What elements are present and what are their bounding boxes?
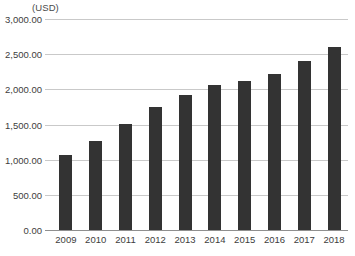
y-axis-tick-mark [45, 230, 50, 231]
y-axis-tick-mark [45, 54, 50, 55]
x-axis-tick-label: 2018 [317, 234, 351, 245]
gridline [50, 54, 348, 55]
y-axis-unit-label: (USD) [32, 2, 59, 13]
bar [328, 47, 341, 230]
y-axis-tick-label: 2,000.00 [5, 84, 42, 95]
y-axis-tick-label: 500.00 [13, 189, 42, 200]
bar [89, 141, 102, 230]
axis-baseline [50, 230, 348, 231]
bar [59, 155, 72, 230]
bar [179, 95, 192, 230]
bar [238, 81, 251, 230]
y-axis-tick-mark [45, 160, 50, 161]
bar [149, 107, 162, 230]
y-axis-tick-mark [45, 125, 50, 126]
bar [119, 124, 132, 230]
y-axis-tick-label: 3,000.00 [5, 14, 42, 25]
y-axis-tick-mark [45, 19, 50, 20]
gridline [50, 19, 348, 20]
bar-chart: (USD) 0.00500.001,000.001,500.002,000.00… [0, 0, 355, 256]
bar [268, 74, 281, 230]
y-axis-tick-label: 1,500.00 [5, 119, 42, 130]
y-axis-tick-mark [45, 195, 50, 196]
bar [298, 61, 311, 230]
y-axis-tick-label: 0.00 [24, 225, 43, 236]
y-axis-tick-label: 2,500.00 [5, 49, 42, 60]
plot-area: 0.00500.001,000.001,500.002,000.002,500.… [50, 19, 348, 230]
y-axis-tick-label: 1,000.00 [5, 154, 42, 165]
bar [208, 85, 221, 230]
y-axis-tick-mark [45, 89, 50, 90]
